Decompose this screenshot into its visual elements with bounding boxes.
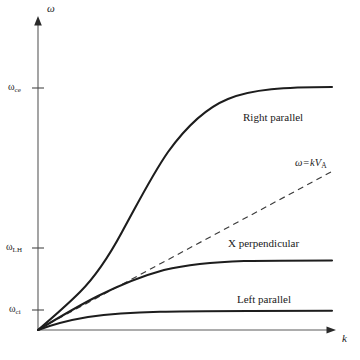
tick-label-omega-lh: ωLH — [6, 242, 22, 254]
curve-left-parallel — [38, 311, 332, 330]
curve-label-x-perpendicular: X perpendicular — [228, 238, 299, 249]
omega-symbol-lh: ω — [6, 241, 13, 252]
tick-label-omega-ce: ωce — [8, 82, 21, 94]
tick-label-omega-ci: ωci — [9, 304, 21, 316]
dispersion-relation-diagram — [0, 0, 360, 360]
curve-label-right-parallel: Right parallel — [243, 112, 303, 123]
curve-label-alfven-equation: ω = kVA — [295, 158, 327, 169]
y-axis-arrowhead — [34, 16, 42, 26]
x-axis-label: k — [342, 333, 347, 344]
omega-symbol-ci: ω — [9, 303, 16, 314]
omega-subscript-lh: LH — [13, 246, 23, 254]
omega-subscript-ce: ce — [15, 86, 21, 94]
omega-symbol-ce: ω — [8, 81, 15, 92]
curve-label-left-parallel: Left parallel — [237, 294, 291, 305]
y-axis-label: ω — [47, 3, 55, 14]
omega-subscript-ci: ci — [16, 308, 21, 316]
alfven-dashed-line — [39, 172, 331, 329]
x-axis-arrowhead — [327, 326, 337, 333]
